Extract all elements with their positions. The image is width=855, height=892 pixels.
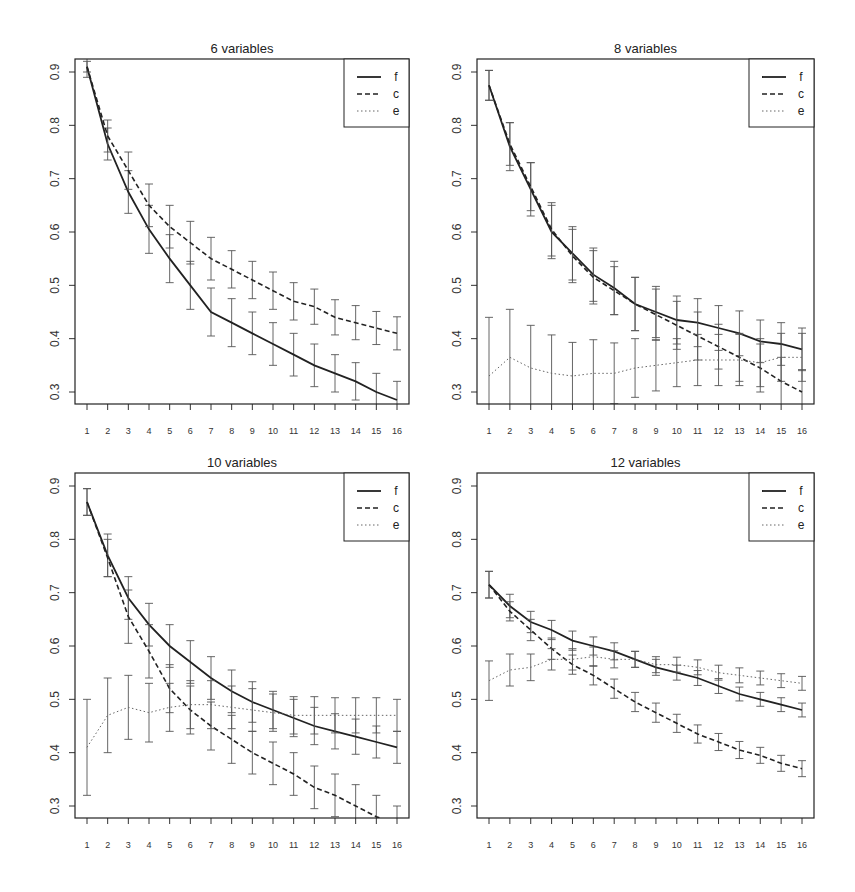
y-tick-label: 0.3 [450,797,464,814]
x-tick-label: 2 [105,426,110,436]
y-tick-label: 0.5 [48,691,62,708]
x-tick-label: 9 [250,840,255,850]
x-tick-label: 4 [549,426,554,436]
y-tick-label: 0.4 [450,330,464,347]
x-tick-label: 4 [146,426,151,436]
x-tick-label: 8 [633,840,638,850]
y-tick-label: 0.4 [48,330,62,347]
y-tick-label: 0.9 [450,477,464,494]
y-tick-label: 0.3 [450,383,464,400]
x-tick-label: 7 [208,840,213,850]
x-tick-label: 11 [693,426,702,436]
y-tick-label: 0.6 [450,223,464,240]
x-tick-label: 7 [208,426,213,436]
y-tick-label: 0.9 [48,63,62,80]
legend-label-e: e [393,104,400,118]
x-tick-label: 14 [351,840,361,850]
x-tick-label: 3 [126,840,131,850]
x-tick-label: 2 [507,426,512,436]
x-tick-label: 9 [653,426,658,436]
x-tick-label: 15 [371,840,381,850]
plot-area [83,489,401,844]
x-tick-label: 6 [591,840,596,850]
x-tick-label: 5 [570,840,575,850]
series-line-e [489,657,802,684]
x-tick-label: 14 [351,426,361,436]
x-tick-label: 6 [591,426,596,436]
y-tick-label: 0.6 [450,637,464,654]
x-tick-label: 8 [229,426,234,436]
y-tick-label: 0.7 [450,170,464,187]
x-tick-label: 5 [167,426,172,436]
x-tick-label: 8 [229,840,234,850]
x-tick-label: 11 [289,840,298,850]
x-tick-label: 4 [549,840,554,850]
y-tick-label: 0.5 [48,277,62,294]
x-tick-label: 12 [309,426,319,436]
x-tick-label: 12 [714,840,724,850]
x-tick-label: 12 [309,840,319,850]
x-tick-label: 10 [268,426,278,436]
x-tick-label: 16 [797,840,807,850]
x-tick-label: 3 [528,426,533,436]
x-tick-label: 16 [392,840,402,850]
x-tick-label: 1 [486,840,491,850]
x-tick-label: 7 [612,840,617,850]
plot-canvas: 0.30.40.50.60.70.80.91234567891011121314… [0,0,855,892]
x-tick-label: 4 [146,840,151,850]
x-tick-label: 14 [755,426,765,436]
chart-figure: 6 variables 8 variables 10 variables 12 … [0,0,855,892]
x-tick-label: 7 [612,426,617,436]
x-tick-label: 5 [167,840,172,850]
y-tick-label: 0.6 [48,637,62,654]
y-tick-label: 0.7 [48,170,62,187]
x-tick-label: 15 [776,840,786,850]
x-tick-label: 8 [633,426,638,436]
x-tick-label: 15 [776,426,786,436]
series-line-e [87,705,397,748]
x-tick-label: 13 [734,840,744,850]
x-tick-label: 16 [797,426,807,436]
series-line-f [489,585,802,710]
y-tick-label: 0.4 [450,744,464,761]
y-tick-label: 0.9 [48,477,62,494]
series-line-c [87,502,397,825]
y-tick-label: 0.3 [48,383,62,400]
x-tick-label: 11 [693,840,702,850]
x-tick-label: 9 [653,840,658,850]
legend-label-e: e [798,104,805,118]
plot-area [485,571,806,776]
series-line-c [489,585,802,769]
x-tick-label: 2 [507,840,512,850]
legend-label-c: c [393,501,399,515]
legend-label-c: c [798,87,804,101]
x-tick-label: 10 [268,840,278,850]
x-tick-label: 2 [105,840,110,850]
x-tick-label: 11 [289,426,298,436]
x-tick-label: 1 [84,840,89,850]
legend-label-e: e [798,518,805,532]
x-tick-label: 16 [392,426,402,436]
legend-label-c: c [393,87,399,101]
y-tick-label: 0.4 [48,744,62,761]
x-tick-label: 1 [486,426,491,436]
x-tick-label: 15 [371,426,381,436]
y-tick-label: 0.8 [450,117,464,134]
y-tick-label: 0.5 [450,277,464,294]
x-tick-label: 10 [672,840,682,850]
x-tick-label: 3 [126,426,131,436]
y-tick-label: 0.6 [48,223,62,240]
y-tick-label: 0.9 [450,63,464,80]
series-line-c [489,85,802,392]
y-tick-label: 0.8 [48,531,62,548]
x-tick-label: 6 [188,426,193,436]
y-tick-label: 0.8 [48,117,62,134]
y-tick-label: 0.3 [48,797,62,814]
x-tick-label: 13 [330,840,340,850]
x-tick-label: 3 [528,840,533,850]
x-tick-label: 12 [714,426,724,436]
x-tick-label: 5 [570,426,575,436]
x-tick-label: 13 [734,426,744,436]
y-tick-label: 0.7 [48,584,62,601]
y-tick-label: 0.7 [450,584,464,601]
